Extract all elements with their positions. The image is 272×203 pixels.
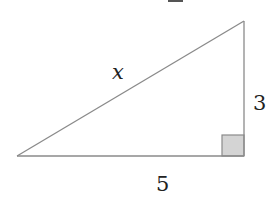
right-angle-marker xyxy=(222,135,244,156)
vertical-leg-label: 3 xyxy=(253,91,266,115)
hypotenuse-label: x xyxy=(112,60,124,84)
horizontal-leg-label: 5 xyxy=(156,172,169,196)
cropped-glyph-fragment xyxy=(168,0,183,2)
triangle-diagram: x 3 5 xyxy=(0,0,272,203)
hypotenuse-side xyxy=(17,21,244,156)
